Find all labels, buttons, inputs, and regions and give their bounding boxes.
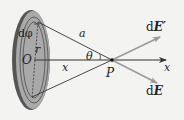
label-r: r — [35, 44, 40, 55]
point-p-dot — [110, 58, 114, 62]
label-point-p: P — [106, 67, 114, 79]
label-a: a — [79, 28, 86, 39]
dE-prime-arrow — [112, 37, 160, 60]
label-dE: dE — [146, 85, 163, 97]
label-dE-prime: dE′ — [146, 21, 166, 33]
label-origin: O — [22, 54, 32, 66]
dE-arrow — [112, 60, 157, 83]
label-theta: θ — [86, 51, 93, 62]
label-x-axis: x — [164, 62, 170, 73]
label-dphi: dφ — [18, 28, 33, 39]
label-x-distance: x — [62, 62, 68, 73]
